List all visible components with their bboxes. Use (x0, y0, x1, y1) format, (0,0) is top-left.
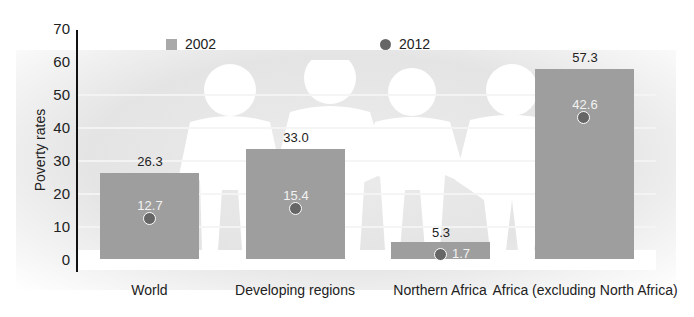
dot-value: 12.7 (125, 198, 175, 213)
legend-label: 2002 (185, 36, 216, 52)
dot-value: 1.7 (436, 246, 486, 261)
dot-africa-excl-2012 (577, 111, 590, 124)
dot-value: 42.6 (560, 97, 610, 112)
bar-value: 33.0 (266, 130, 326, 145)
y-tick: 10 (30, 218, 70, 235)
legend-2012: 2012 (380, 36, 430, 52)
y-tick: 20 (30, 185, 70, 202)
legend-2002: 2002 (166, 36, 216, 52)
y-tick: 40 (30, 119, 70, 136)
y-tick: 60 (30, 53, 70, 70)
legend-square-icon (166, 39, 177, 50)
y-tick: 50 (30, 86, 70, 103)
bar-value: 26.3 (120, 154, 180, 169)
poverty-chart: Poverty rates 0 10 20 30 40 50 60 70 200… (0, 0, 694, 317)
category-label: World (100, 282, 199, 298)
legend-label: 2012 (399, 36, 430, 52)
y-tick: 30 (30, 152, 70, 169)
y-tick: 70 (30, 20, 70, 37)
y-axis-line (76, 30, 78, 272)
category-label: Developing regions (230, 282, 360, 298)
category-label: Africa (excluding North Africa) (480, 282, 690, 298)
bar-value: 57.3 (555, 50, 615, 65)
dot-value: 15.4 (271, 188, 321, 203)
dot-world-2012 (143, 212, 156, 225)
bar-value: 5.3 (411, 225, 471, 240)
legend-dot-icon (380, 39, 391, 50)
dot-developing-2012 (289, 202, 302, 215)
y-tick: 0 (30, 251, 70, 268)
